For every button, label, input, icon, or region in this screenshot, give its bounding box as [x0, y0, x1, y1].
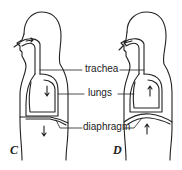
figure-c-lung-inner [29, 80, 55, 112]
figure-d-lung-inner [133, 80, 159, 108]
figure-c-diaphragm-leader [56, 120, 82, 128]
figure-d-diaphragm-arrow-up-icon [145, 124, 149, 134]
figure-d [118, 12, 172, 160]
figure-d-face-outline [121, 32, 130, 160]
figure-c-face-outline [17, 34, 26, 160]
figure-c-lung-outline [26, 74, 58, 116]
figure-d-nose-airflow [119, 45, 124, 50]
figure-d-lung-outline [130, 74, 162, 112]
figure-d-airway-outer [124, 39, 144, 74]
panel-letter-c: C [10, 144, 18, 156]
figure-c [14, 12, 84, 160]
figure-c-diaphragm-arrow-down-icon [42, 126, 46, 136]
breathing-diagram [0, 0, 182, 170]
figure-d-diaphragm-inner [128, 118, 170, 124]
figure-c-lung-arrow-down-icon [45, 86, 49, 96]
figure-c-airway-outer [20, 39, 40, 74]
label-diaphragm: diaphragm [83, 122, 130, 132]
figure-d-lung-arrow-up-icon [148, 86, 152, 96]
label-lungs: lungs [88, 88, 112, 98]
panel-letter-d: D [113, 144, 122, 156]
label-trachea: trachea [85, 64, 118, 74]
